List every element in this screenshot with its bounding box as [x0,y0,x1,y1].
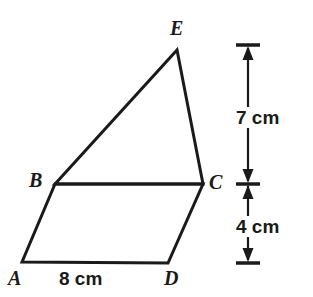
geometry-figure: A B C D E 8 cm 7 cm 4 cm [0,0,313,297]
dimension-label-base: 8 cm [57,268,104,289]
vertex-label-d: D [164,268,178,288]
canvas-background [0,0,313,297]
geometry-canvas [0,0,313,297]
vertex-label-e: E [170,18,183,38]
vertex-label-b: B [29,170,42,190]
dimension-label-lower-height: 4 cm [234,216,281,237]
vertex-label-c: C [209,172,222,192]
vertex-label-a: A [8,268,21,288]
dimension-label-upper-height: 7 cm [234,107,281,128]
